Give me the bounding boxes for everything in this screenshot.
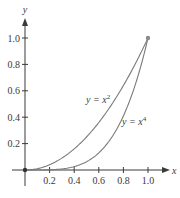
y-tick-label: 0.6 bbox=[8, 85, 21, 96]
x-axis-label: x bbox=[171, 165, 177, 176]
y-tick-label: 0.4 bbox=[8, 112, 21, 123]
origin-point bbox=[23, 168, 27, 172]
y-axis-label: y bbox=[22, 4, 28, 15]
curve-label-x2: y = x2 bbox=[85, 93, 111, 105]
x-tick-label: 0.6 bbox=[93, 175, 106, 186]
x-axis-arrow-icon bbox=[162, 167, 170, 173]
y-tick-label: 0.2 bbox=[8, 138, 21, 149]
ticks: 0.20.40.60.81.00.20.40.60.81.0 bbox=[8, 33, 155, 187]
y-tick-label: 1.0 bbox=[8, 33, 21, 44]
chart: 0.20.40.60.81.00.20.40.60.81.0 xyy = x2y… bbox=[0, 0, 180, 198]
labels: xyy = x2y = x4 bbox=[22, 4, 177, 176]
x-tick-label: 0.4 bbox=[68, 175, 81, 186]
y-axis-arrow-icon bbox=[22, 18, 28, 26]
x-tick-label: 0.8 bbox=[117, 175, 130, 186]
x-tick-label: 0.2 bbox=[43, 175, 56, 186]
intersection-point bbox=[146, 36, 150, 40]
y-tick-label: 0.8 bbox=[8, 59, 21, 70]
curve-label-x4: y = x4 bbox=[121, 115, 147, 127]
x-tick-label: 1.0 bbox=[142, 175, 155, 186]
